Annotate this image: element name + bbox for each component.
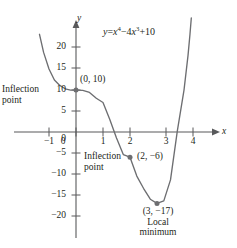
y-tick-label-neg5: −5 bbox=[42, 147, 66, 158]
x-tick-label-1: 1 bbox=[96, 136, 110, 147]
y-tick-label-neg20: −20 bbox=[40, 210, 66, 221]
y-axis-label: y bbox=[77, 13, 81, 24]
marker-dots bbox=[74, 88, 160, 206]
annotation-inflection-left-line1: Inflection bbox=[2, 84, 39, 95]
y-axis bbox=[72, 20, 81, 238]
annotation-local-min-line1: Local bbox=[120, 217, 196, 228]
y-tick-label-10: 10 bbox=[44, 84, 66, 95]
x-tick-label-4: 4 bbox=[186, 136, 200, 147]
annotation-inflection-mid-line1: Inflection bbox=[84, 151, 121, 162]
x-axis-label: x bbox=[222, 126, 226, 137]
point-marker-2-neg6 bbox=[128, 155, 133, 160]
x-tick-label-0: 0 bbox=[56, 136, 70, 147]
annotation-inflection-mid-line2: point bbox=[84, 162, 121, 173]
annotation-local-minimum: (3, −17) Local minimum bbox=[120, 206, 196, 238]
y-tick-label-5: 5 bbox=[44, 105, 66, 116]
annotation-local-min-line2: minimum bbox=[120, 227, 196, 238]
graph-figure: 20 15 10 5 0 −5 −10 −15 −20 −1 0 1 2 3 4… bbox=[0, 0, 237, 248]
annotation-point-3-neg17: (3, −17) bbox=[120, 206, 196, 217]
equation-constant: 10 bbox=[145, 26, 155, 37]
annotation-inflection-left-line2: point bbox=[2, 95, 39, 106]
x-tick-label-3: 3 bbox=[159, 136, 173, 147]
point-marker-0-10 bbox=[74, 88, 79, 93]
y-tick-label-15: 15 bbox=[44, 62, 66, 73]
annotation-inflection-mid: Inflection point bbox=[84, 151, 121, 172]
x-tick-label-2: 2 bbox=[123, 136, 137, 147]
annotation-point-0-10: (0, 10) bbox=[80, 74, 105, 85]
equation-label: y=x4−4x3+10 bbox=[103, 25, 155, 38]
y-tick-label-neg15: −15 bbox=[40, 189, 66, 200]
y-tick-label-20: 20 bbox=[44, 41, 66, 52]
annotation-point-2-neg6: (2, −6) bbox=[137, 151, 163, 162]
annotation-inflection-left: Inflection point bbox=[2, 84, 39, 105]
y-tick-label-neg10: −10 bbox=[40, 168, 66, 179]
